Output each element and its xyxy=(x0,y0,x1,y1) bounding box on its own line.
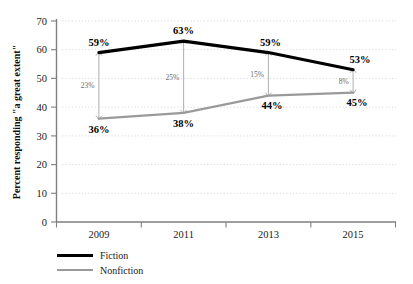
y-tick-label-0: 0 xyxy=(42,217,47,228)
x-tick-label-2013: 2013 xyxy=(258,229,279,240)
gap-label-2015: 8% xyxy=(339,77,349,86)
y-tick-label-20: 20 xyxy=(37,159,48,170)
y-tick-label-60: 60 xyxy=(37,44,48,55)
point-label-nonfiction-2015: 45% xyxy=(347,97,368,108)
y-tick-label-10: 10 xyxy=(37,188,48,199)
legend-label-fiction: Fiction xyxy=(100,250,128,261)
y-axis-title: Percent responding "a great extent" xyxy=(11,45,22,199)
point-label-nonfiction-2009: 36% xyxy=(88,124,109,135)
gap-label-2013: 15% xyxy=(250,70,264,79)
point-label-fiction-2009: 59% xyxy=(88,37,109,48)
point-label-fiction-2015: 53% xyxy=(350,54,371,65)
point-label-fiction-2013: 59% xyxy=(260,37,281,48)
y-tick-label-70: 70 xyxy=(37,16,48,27)
point-label-fiction-2011: 63% xyxy=(173,25,194,36)
y-tick-label-50: 50 xyxy=(37,73,48,84)
point-label-nonfiction-2011: 38% xyxy=(173,118,194,129)
x-tick-label-2015: 2015 xyxy=(343,229,364,240)
x-tick-label-2009: 2009 xyxy=(88,229,109,240)
y-tick-label-30: 30 xyxy=(37,131,48,142)
line-chart: 70 60 50 40 30 20 10 0 Percent respondin… xyxy=(0,0,413,284)
chart-background xyxy=(0,0,413,284)
y-tick-label-40: 40 xyxy=(37,102,48,113)
x-tick-label-2011: 2011 xyxy=(173,229,194,240)
gap-label-2011: 25% xyxy=(165,73,179,82)
gap-label-2009: 23% xyxy=(81,81,95,90)
chart-canvas: 70 60 50 40 30 20 10 0 Percent respondin… xyxy=(0,0,413,284)
point-label-nonfiction-2013: 44% xyxy=(262,100,283,111)
legend-label-nonfiction: Nonfiction xyxy=(100,265,143,276)
